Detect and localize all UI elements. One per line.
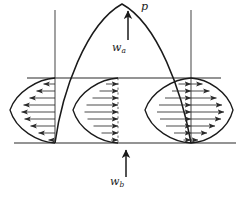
label-upper-deflection-base: w [112,41,121,54]
profile-inner-left-lobe [73,78,118,143]
label-upper-deflection-subscript: a [121,46,125,55]
inner-right-lobe-arrows [157,84,191,140]
inner-left-lobe-arrows [85,84,119,140]
label-lower-deflection: wb [110,176,124,188]
profile-outer-left-lobe [10,78,55,143]
figure-canvas [0,0,243,198]
profile-outer-right-lobe [191,78,233,143]
label-lower-deflection-subscript: b [119,180,124,189]
parabolic-load-curve [55,4,191,143]
label-upper-deflection: wa [112,42,126,54]
label-peak-load: p [141,1,148,12]
load-distribution-figure: p wa wb [0,0,243,198]
label-peak-load-text: p [141,0,148,13]
reference-lines [14,10,236,145]
label-lower-deflection-base: w [110,175,119,188]
